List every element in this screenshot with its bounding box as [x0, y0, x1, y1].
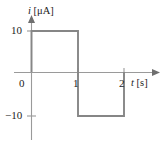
y-axis-unit: [μA]: [34, 5, 54, 16]
x-axis-arrowhead: [152, 69, 160, 76]
y-axis-label: i [μA]: [28, 5, 54, 16]
x-tick-label-2: 2: [119, 78, 125, 89]
x-tick-label-0: 0: [19, 78, 25, 89]
y-tick-label-negative: −10: [5, 110, 22, 121]
x-axis-label: t [s]: [131, 77, 148, 88]
x-axis-unit: [s]: [137, 77, 148, 88]
plot-canvas: [0, 0, 168, 148]
y-axis-arrowhead: [28, 15, 35, 23]
current-waveform-trace: [32, 31, 125, 116]
y-tick-label-positive: 10: [11, 25, 22, 36]
x-tick-label-1: 1: [73, 78, 79, 89]
current-waveform-figure: i [μA] t [s] 10 −10 0 1 2: [0, 0, 168, 148]
